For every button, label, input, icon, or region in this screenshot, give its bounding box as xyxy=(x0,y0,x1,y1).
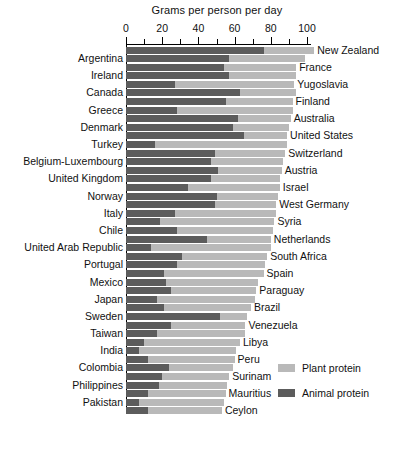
stacked-bar[interactable] xyxy=(126,373,229,380)
bar-segment-animal-protein xyxy=(126,98,226,105)
stacked-bar[interactable] xyxy=(126,47,314,54)
stacked-bar[interactable] xyxy=(126,339,240,346)
legend-item[interactable]: Animal protein xyxy=(278,387,369,399)
bar-segment-plant-protein xyxy=(207,236,270,243)
stacked-bar[interactable] xyxy=(126,227,273,234)
bar-segment-plant-protein xyxy=(182,253,267,260)
stacked-bar[interactable] xyxy=(126,364,233,371)
stacked-bar[interactable] xyxy=(126,124,289,131)
stacked-bar[interactable] xyxy=(126,55,305,62)
bar-row[interactable]: Yugoslavia xyxy=(0,80,404,88)
stacked-bar[interactable] xyxy=(126,279,258,286)
bar-row[interactable]: West Germany xyxy=(0,201,404,209)
bar-row[interactable]: Argentina xyxy=(0,55,404,63)
bar-row[interactable]: Finland xyxy=(0,98,404,106)
stacked-bar[interactable] xyxy=(126,347,236,354)
bar-row[interactable]: Portugal xyxy=(0,261,404,269)
bar-segment-animal-protein xyxy=(126,390,148,397)
stacked-bar[interactable] xyxy=(126,98,293,105)
bar-row[interactable]: India xyxy=(0,347,404,355)
x-axis-minor-tick xyxy=(253,39,254,44)
stacked-bar[interactable] xyxy=(126,261,265,268)
bar-row[interactable]: South Africa xyxy=(0,252,404,260)
bar-segment-plant-protein xyxy=(169,364,232,371)
stacked-bar[interactable] xyxy=(126,72,296,79)
country-label: South Africa xyxy=(270,252,327,260)
bar-segment-animal-protein xyxy=(126,382,159,389)
bar-row[interactable]: Australia xyxy=(0,115,404,123)
stacked-bar[interactable] xyxy=(126,184,280,191)
country-label: Chile xyxy=(99,226,123,234)
bar-row[interactable]: Sweden xyxy=(0,312,404,320)
stacked-bar[interactable] xyxy=(126,399,224,406)
country-label: United Arab Republic xyxy=(24,243,123,251)
x-axis-minor-tick xyxy=(144,39,145,44)
stacked-bar[interactable] xyxy=(126,296,255,303)
bar-row[interactable]: Spain xyxy=(0,269,404,277)
country-label: Paraguay xyxy=(259,286,304,294)
bar-row[interactable]: Turkey xyxy=(0,141,404,149)
bar-row[interactable]: Italy xyxy=(0,209,404,217)
bar-row[interactable]: Brazil xyxy=(0,304,404,312)
stacked-bar[interactable] xyxy=(126,167,282,174)
stacked-bar[interactable] xyxy=(126,201,276,208)
stacked-bar[interactable] xyxy=(126,193,278,200)
bar-segment-animal-protein xyxy=(126,339,144,346)
stacked-bar[interactable] xyxy=(126,244,271,251)
x-axis-major-tick xyxy=(271,37,272,44)
stacked-bar[interactable] xyxy=(126,218,274,225)
stacked-bar[interactable] xyxy=(126,390,226,397)
stacked-bar[interactable] xyxy=(126,382,227,389)
bar-row[interactable]: Greece xyxy=(0,106,404,114)
bar-row[interactable]: United Kingdom xyxy=(0,175,404,183)
stacked-bar[interactable] xyxy=(126,253,267,260)
bar-row[interactable]: United States xyxy=(0,132,404,140)
bar-row[interactable]: Chile xyxy=(0,226,404,234)
bar-row[interactable]: Syria xyxy=(0,218,404,226)
bar-row[interactable]: Belgium-Luxembourg xyxy=(0,158,404,166)
bar-row[interactable]: Paraguay xyxy=(0,287,404,295)
stacked-bar[interactable] xyxy=(126,115,291,122)
stacked-bar[interactable] xyxy=(126,330,245,337)
stacked-bar[interactable] xyxy=(126,210,276,217)
stacked-bar[interactable] xyxy=(126,356,235,363)
bar-row[interactable]: New Zealand xyxy=(0,46,404,54)
country-label: Austria xyxy=(285,166,318,174)
stacked-bar[interactable] xyxy=(126,150,285,157)
stacked-bar[interactable] xyxy=(126,81,294,88)
bar-row[interactable]: Libya xyxy=(0,338,404,346)
stacked-bar[interactable] xyxy=(126,107,293,114)
bar-row[interactable]: Mexico xyxy=(0,278,404,286)
bar-row[interactable]: United Arab Republic xyxy=(0,244,404,252)
stacked-bar[interactable] xyxy=(126,175,280,182)
country-label: Japan xyxy=(94,295,123,303)
bar-row[interactable]: Venezuela xyxy=(0,321,404,329)
bar-segment-animal-protein xyxy=(126,47,264,54)
stacked-bar[interactable] xyxy=(126,141,287,148)
stacked-bar[interactable] xyxy=(126,287,256,294)
bar-row[interactable]: France xyxy=(0,63,404,71)
bar-row[interactable]: Taiwan xyxy=(0,330,404,338)
stacked-bar[interactable] xyxy=(126,270,264,277)
stacked-bar[interactable] xyxy=(126,313,247,320)
stacked-bar[interactable] xyxy=(126,64,296,71)
bar-segment-plant-protein xyxy=(171,287,256,294)
stacked-bar[interactable] xyxy=(126,322,245,329)
legend-item[interactable]: Plant protein xyxy=(278,362,369,374)
bar-segment-animal-protein xyxy=(126,201,215,208)
stacked-bar[interactable] xyxy=(126,304,251,311)
stacked-bar[interactable] xyxy=(126,89,296,96)
x-axis-tick-label: 40 xyxy=(193,22,205,34)
bar-segment-plant-protein xyxy=(224,64,296,71)
bar-row[interactable]: Canada xyxy=(0,89,404,97)
stacked-bar[interactable] xyxy=(126,407,222,414)
bar-row[interactable]: Israel xyxy=(0,184,404,192)
country-label: Italy xyxy=(104,209,123,217)
bar-rows-container: New ZealandArgentinaFranceIrelandYugosla… xyxy=(0,46,404,416)
stacked-bar[interactable] xyxy=(126,132,287,139)
stacked-bar[interactable] xyxy=(126,236,271,243)
x-axis-tick-label: 100 xyxy=(298,22,316,34)
bar-segment-plant-protein xyxy=(211,158,283,165)
bar-row[interactable]: Japan xyxy=(0,295,404,303)
stacked-bar[interactable] xyxy=(126,158,283,165)
